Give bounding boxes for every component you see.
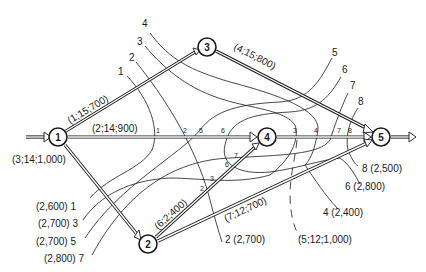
cut-top-label-6: 6	[342, 64, 348, 75]
inline-mark-6: 6	[221, 127, 225, 134]
arc-label-1-2: (3;14;1,000)	[12, 154, 66, 165]
cut-value-4: 4 (2,400)	[323, 207, 363, 218]
cut-value-5: (2,700) 5	[36, 236, 76, 247]
node-1: 1	[49, 128, 67, 146]
inline-mark-3: 3	[293, 127, 297, 134]
inline-mark-3b: 3	[210, 175, 214, 182]
cut-top-label-8: 8	[358, 96, 364, 107]
inline-mark-8: 8	[348, 127, 352, 134]
node-5-label: 5	[378, 132, 384, 143]
inline-mark-4: 4	[314, 127, 318, 134]
cut-curves	[83, 33, 360, 255]
inline-mark-1: 1	[156, 127, 160, 134]
source-arrow	[26, 132, 51, 142]
node-3: 3	[198, 38, 216, 56]
cut-value-2: 2 (2,700)	[225, 234, 265, 245]
node-5: 5	[372, 128, 390, 146]
cut-top-label-7: 7	[350, 80, 356, 91]
node-2-label: 2	[145, 239, 151, 250]
inline-mark-2: 2	[183, 127, 187, 134]
inline-mark-6b: 6	[225, 161, 229, 168]
inline-mark-7: 7	[337, 127, 341, 134]
cut-value-1: (2,600) 1	[36, 201, 76, 212]
arc-5-label-leader	[290, 140, 300, 238]
node-2: 2	[139, 235, 157, 253]
cut-curve-4	[150, 33, 338, 209]
arc-2-5	[158, 139, 372, 241]
inline-mark-7b: 7	[234, 152, 238, 159]
node-1-label: 1	[55, 132, 61, 143]
cut-top-label-1: 1	[118, 66, 124, 77]
cut-top-label-4: 4	[142, 18, 148, 29]
cut-top-label-2: 2	[129, 52, 135, 63]
cut-top-label-3: 3	[137, 36, 143, 47]
arc-2-4	[156, 143, 259, 237]
sink-arrow	[391, 132, 416, 142]
node-4-label: 4	[264, 132, 270, 143]
arc-label-3-5: (4;15;800)	[232, 41, 278, 72]
cut-value-7: (2,800) 7	[44, 253, 84, 264]
arc-3-5	[216, 51, 373, 133]
arc-4-5	[277, 132, 371, 142]
cut-curve-7	[92, 93, 348, 255]
inline-mark-5: 5	[199, 127, 203, 134]
cut-value-8: 8 (2,500)	[362, 163, 402, 174]
cut-value-6: 6 (2,800)	[345, 181, 385, 192]
node-3-label: 3	[204, 42, 210, 53]
cut-value-3: (2,700) 3	[38, 218, 78, 229]
nodes: 1 2 3 4 5	[49, 38, 390, 253]
network-diagram: 1 2 3 4 5 (1;15;700) (2;14;900) (3;14;1,…	[0, 0, 426, 272]
node-4: 4	[258, 128, 276, 146]
arc-label-4-5: (5;12;1,000)	[298, 234, 352, 245]
arc-label-1-4: (2;14;900)	[92, 123, 138, 134]
cut-top-label-5: 5	[332, 47, 338, 58]
inline-mark-2b: 2	[200, 185, 204, 192]
